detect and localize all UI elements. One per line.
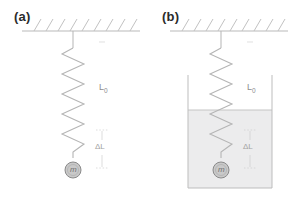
mass-label-a: m [70, 166, 77, 174]
liquid-container [188, 75, 272, 188]
natural-length-label-b: L0 [247, 83, 256, 94]
panel-b: (b) [148, 0, 296, 198]
ceiling-support-b [170, 19, 288, 31]
spring-coil-a [62, 48, 84, 158]
extension-label-b: ΔL [243, 143, 253, 151]
physics-figure: (a) [0, 0, 296, 198]
mass-label-b: m [218, 166, 225, 174]
panel-a: (a) [0, 0, 148, 198]
liquid-body [188, 110, 272, 188]
natural-length-label-a: L0 [99, 83, 108, 94]
ceiling-support-a [22, 19, 140, 31]
extension-label-a: ΔL [95, 143, 105, 151]
